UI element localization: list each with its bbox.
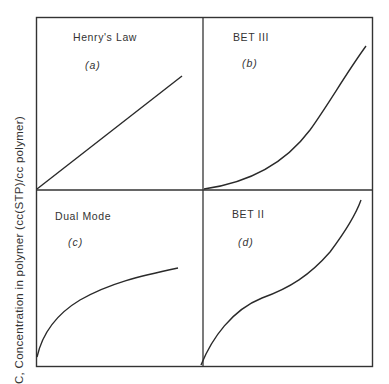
panel-a-label: (a)	[85, 59, 101, 71]
panel-a-title: Henry's Law	[73, 31, 137, 43]
panel-d-label: (d)	[238, 236, 254, 248]
panel-b-label: (b)	[242, 57, 258, 69]
panel-c-title: Dual Mode	[55, 210, 111, 222]
curve-henrys-law	[37, 76, 182, 189]
curve-bet-iii	[204, 46, 366, 189]
panel-b-title: BET III	[233, 31, 269, 43]
y-axis-label: C, Concentration in polymer (cc(STP)/cc …	[2, 0, 36, 380]
curve-bet-ii	[201, 200, 361, 365]
panel-d-title: BET II	[232, 208, 265, 220]
curve-dual-mode	[37, 268, 178, 357]
y-axis-label-text: C, Concentration in polymer (cc(STP)/cc …	[13, 116, 25, 384]
panel-c-label: (c)	[68, 236, 83, 248]
